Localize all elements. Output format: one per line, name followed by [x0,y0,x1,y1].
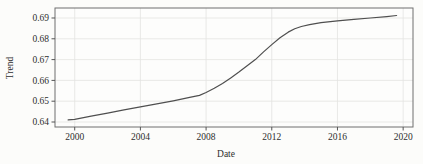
y-axis-label: Trend [5,57,15,80]
y-tick-label: 0.66 [32,76,49,86]
y-tick-label: 0.67 [32,55,49,65]
x-tick-label: 2008 [197,132,216,142]
plot-background [55,8,413,127]
y-tick-label: 0.65 [32,96,49,106]
trend-chart-figure: 2000200420082012201620200.640.650.660.67… [0,0,423,164]
y-tick-label: 0.68 [32,34,49,44]
trend-line-chart: 2000200420082012201620200.640.650.660.67… [0,0,423,164]
y-tick-label: 0.69 [32,13,49,23]
x-tick-label: 2004 [131,132,150,142]
x-axis-label: Date [217,149,235,159]
x-tick-label: 2012 [262,132,281,142]
x-tick-label: 2020 [394,132,413,142]
x-tick-label: 2000 [65,132,84,142]
plot-area: 2000200420082012201620200.640.650.660.67… [32,8,413,142]
x-tick-label: 2016 [328,132,347,142]
y-tick-label: 0.64 [32,117,49,127]
